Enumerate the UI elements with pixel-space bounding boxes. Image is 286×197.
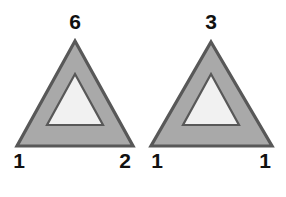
right-bottom-right-label: 1 [250, 150, 280, 171]
left-bottom-left-label: 1 [4, 150, 34, 171]
right-bottom-left-label: 1 [142, 150, 172, 171]
right-triangle-figure [151, 42, 272, 146]
left-apex-label: 6 [60, 11, 90, 32]
left-triangle-figure [17, 41, 133, 146]
left-bottom-right-label: 2 [110, 150, 140, 171]
right-apex-label: 3 [196, 11, 226, 32]
figure-canvas: 6 1 2 3 1 1 [0, 0, 286, 197]
